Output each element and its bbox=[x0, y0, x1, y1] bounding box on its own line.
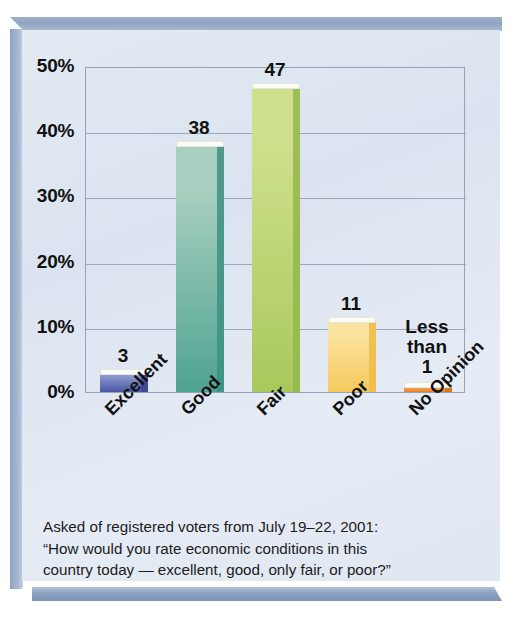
panel-bottom-bevel bbox=[32, 587, 502, 601]
panel-bottom-right-corner bbox=[494, 587, 502, 601]
caption-line-3: country today — excellent, good, only fa… bbox=[43, 559, 483, 581]
bar-value-line: 38 bbox=[139, 118, 259, 138]
bar-side-face bbox=[293, 86, 300, 392]
caption-line-2: “How would you rate economic conditions … bbox=[43, 538, 483, 560]
bar-value-line: 11 bbox=[291, 294, 411, 314]
y-tick-label: 50% bbox=[8, 55, 74, 77]
panel-bottom-left-corner bbox=[22, 587, 32, 601]
bar[interactable] bbox=[176, 144, 224, 392]
y-tick-label: 0% bbox=[8, 381, 74, 403]
bar-value-line: Less bbox=[367, 317, 487, 337]
bar-value-label: 11 bbox=[291, 294, 411, 314]
y-tick-label: 10% bbox=[8, 316, 74, 338]
bar-top-cap bbox=[176, 141, 224, 147]
bar-value-label: 38 bbox=[139, 118, 259, 138]
bar-top-cap bbox=[252, 83, 300, 89]
panel-top-bevel bbox=[10, 17, 502, 31]
bar-value-line: 47 bbox=[215, 60, 335, 80]
bar-side-face bbox=[217, 144, 224, 392]
y-tick-label: 40% bbox=[8, 120, 74, 142]
bar[interactable] bbox=[252, 86, 300, 392]
y-tick-label: 30% bbox=[8, 185, 74, 207]
poll-chart-figure: 0%10%20%30%40%50% 3384711Lessthan1 Excel… bbox=[0, 0, 514, 626]
y-tick-label: 20% bbox=[8, 251, 74, 273]
caption-line-1: Asked of registered voters from July 19–… bbox=[43, 516, 483, 538]
bar-value-label: 47 bbox=[215, 60, 335, 80]
chart-caption: Asked of registered voters from July 19–… bbox=[43, 516, 483, 581]
